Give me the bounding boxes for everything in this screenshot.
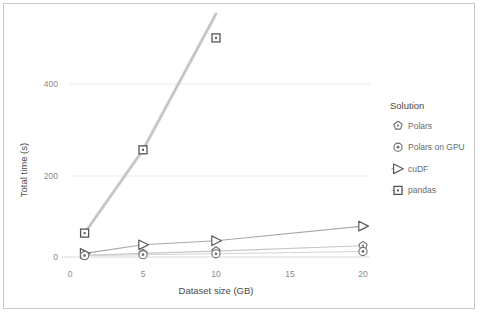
x-axis-tick-labels: 0 5 10 15 20 (68, 269, 368, 279)
series-marker-cudf-20 (359, 221, 369, 231)
legend-item-pandas[interactable]: pandas (392, 185, 436, 195)
series-marker-pandas-10 (212, 34, 220, 42)
x-tick-label-10: 10 (211, 269, 221, 279)
legend: Solution Polars Polars on GPU cuDF (390, 100, 465, 195)
y-tick-label-0: 0 (53, 252, 58, 262)
legend-item-polars[interactable]: Polars (394, 121, 432, 131)
circle-dot-icon (394, 143, 402, 151)
series-cudf (80, 221, 368, 258)
series-pandas (81, 14, 220, 237)
legend-label-cudf: cuDF (408, 164, 428, 174)
gridlines (62, 84, 370, 257)
series-line-cudf (85, 226, 363, 253)
legend-label-pandas: pandas (408, 185, 436, 195)
y-axis-tick-labels: 400 200 0 (44, 79, 58, 262)
x-axis-title: Dataset size (GB) (179, 285, 254, 296)
legend-item-polars-on-gpu[interactable]: Polars on GPU (394, 142, 465, 152)
series-marker-polars-on-gpu-5 (139, 251, 147, 259)
y-axis-title: Total time (s) (18, 143, 29, 197)
series-line-pandas-core (85, 14, 216, 233)
y-tick-label-200: 200 (44, 171, 58, 181)
x-tick-label-15: 15 (285, 269, 295, 279)
legend-label-polars: Polars (408, 121, 432, 131)
triangle-right-icon (392, 164, 404, 174)
legend-item-cudf[interactable]: cuDF (392, 164, 429, 174)
series-marker-polars-on-gpu-20 (359, 247, 367, 255)
y-tick-label-400: 400 (44, 79, 58, 89)
series-marker-pandas-5 (139, 146, 147, 154)
series-marker-cudf-5 (139, 240, 149, 250)
series-marker-cudf-10 (212, 236, 222, 246)
x-tick-label-0: 0 (68, 269, 73, 279)
series-marker-polars-on-gpu-1 (81, 252, 89, 260)
x-tick-label-20: 20 (358, 269, 368, 279)
legend-title: Solution (390, 100, 424, 111)
square-dot-icon (392, 186, 404, 194)
line-chart: 400 200 0 Total time (s) 0 5 10 15 20 Da… (0, 0, 480, 314)
series-marker-pandas-1 (81, 229, 89, 237)
series-line-pandas (85, 14, 216, 233)
legend-label-polars-on-gpu: Polars on GPU (408, 142, 465, 152)
series-polars (81, 241, 368, 258)
x-tick-label-5: 5 (141, 269, 146, 279)
pentagon-icon (394, 121, 402, 129)
series-marker-polars-on-gpu-10 (212, 250, 220, 258)
